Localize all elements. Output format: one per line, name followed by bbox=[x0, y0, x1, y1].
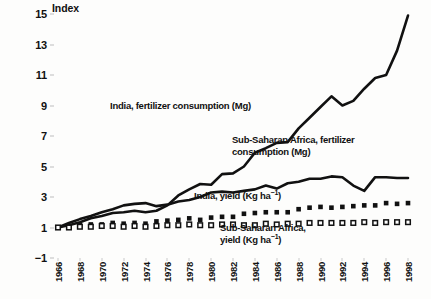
annotation-india-yield: India, yield (Kg ha−1) bbox=[194, 190, 281, 202]
series-marker bbox=[187, 222, 192, 227]
x-tick-label: 1978 bbox=[184, 262, 195, 282]
series-marker bbox=[362, 220, 367, 225]
annotation-ssa-yield: Sub-Saharan Africa, yield (Kg ha−1) bbox=[220, 222, 306, 245]
series-marker bbox=[67, 225, 72, 230]
x-tick-label: 1970 bbox=[96, 262, 107, 282]
series-marker bbox=[329, 205, 334, 210]
y-tick-label: −1 bbox=[35, 252, 47, 264]
x-tick-mark bbox=[123, 258, 124, 261]
series-marker bbox=[110, 224, 115, 229]
annotation-ssa-fertilizer: Sub-Saharan Africa, fertilizer consumpti… bbox=[232, 134, 355, 157]
series-marker bbox=[176, 218, 181, 223]
series-marker bbox=[395, 202, 400, 207]
x-tick-mark bbox=[364, 258, 365, 261]
series-marker bbox=[99, 224, 104, 229]
x-tick-label: 1966 bbox=[53, 262, 64, 282]
annotation-india-yield-text: India, yield (Kg ha bbox=[194, 190, 271, 201]
x-tick-label: 1996 bbox=[381, 262, 392, 282]
x-tick-label: 1980 bbox=[206, 262, 217, 282]
x-tick-label: 1992 bbox=[337, 262, 348, 282]
y-tick-label: 7 bbox=[41, 130, 47, 142]
series-marker bbox=[198, 223, 203, 228]
series-marker bbox=[143, 224, 148, 229]
series-marker bbox=[89, 224, 94, 229]
x-tick-label: 1974 bbox=[140, 262, 151, 282]
y-tick-label: 1 bbox=[41, 222, 47, 234]
x-tick-label: 1982 bbox=[228, 262, 239, 282]
x-tick-label: 1988 bbox=[293, 262, 304, 282]
series-marker bbox=[56, 225, 61, 230]
x-tick-mark bbox=[79, 258, 80, 261]
y-axis-title: Index bbox=[52, 2, 79, 14]
series-marker bbox=[285, 210, 290, 215]
series-marker bbox=[329, 221, 334, 226]
series-marker bbox=[340, 221, 345, 226]
series-marker bbox=[384, 220, 389, 225]
series-marker bbox=[373, 203, 378, 208]
annotation-ssa-yield-line1: Sub-Saharan Africa, bbox=[220, 222, 306, 234]
annotation-ssa-yield-tail: ) bbox=[278, 234, 281, 245]
series-marker bbox=[406, 201, 411, 206]
series-marker bbox=[373, 221, 378, 226]
x-tick-mark bbox=[211, 258, 212, 261]
x-tick-label: 1972 bbox=[118, 262, 129, 282]
series-marker bbox=[264, 210, 269, 215]
series-marker bbox=[340, 205, 345, 210]
series-marker bbox=[384, 201, 389, 206]
x-tick-mark bbox=[58, 258, 59, 261]
y-tick-label: 3 bbox=[41, 191, 47, 203]
series-marker bbox=[121, 224, 126, 229]
series-marker bbox=[307, 221, 312, 226]
annotation-ssa-fertilizer-line1: Sub-Saharan Africa, fertilizer bbox=[232, 134, 355, 146]
x-tick-mark bbox=[386, 258, 387, 261]
x-tick-label: 1968 bbox=[74, 262, 85, 282]
x-tick-label: 1990 bbox=[315, 262, 326, 282]
annotation-india-yield-tail: ) bbox=[278, 190, 281, 201]
x-tick-mark bbox=[167, 258, 168, 261]
series-marker bbox=[318, 205, 323, 210]
series-marker bbox=[198, 218, 203, 223]
x-tick-label: 1976 bbox=[162, 262, 173, 282]
x-tick-label: 1994 bbox=[359, 262, 370, 282]
annotation-india-fertilizer: India, fertilizer consumption (Mg) bbox=[110, 100, 251, 112]
x-tick-mark bbox=[408, 258, 409, 261]
series-marker bbox=[132, 224, 137, 229]
series-marker bbox=[187, 216, 192, 221]
x-tick-mark bbox=[298, 258, 299, 261]
y-tick-label: 5 bbox=[41, 161, 47, 173]
x-tick-mark bbox=[101, 258, 102, 261]
series-marker bbox=[209, 223, 214, 228]
series-marker bbox=[176, 223, 181, 228]
series-marker bbox=[351, 204, 356, 209]
x-tick-label: 1984 bbox=[249, 262, 260, 282]
series-marker bbox=[220, 215, 225, 220]
y-tick-label: 13 bbox=[35, 39, 47, 51]
series-marker bbox=[242, 211, 247, 216]
series-marker bbox=[253, 211, 258, 216]
x-tick-mark bbox=[145, 258, 146, 261]
series-marker bbox=[154, 224, 159, 229]
series-marker bbox=[296, 207, 301, 212]
series-marker bbox=[362, 203, 367, 208]
y-tick-label: 15 bbox=[35, 8, 47, 20]
annotation-india-fertilizer-text: India, fertilizer consumption (Mg) bbox=[110, 100, 251, 111]
series-marker bbox=[406, 220, 411, 225]
series-marker bbox=[209, 215, 214, 220]
x-tick-mark bbox=[254, 258, 255, 261]
series-marker bbox=[351, 221, 356, 226]
annotation-ssa-yield-line2: yield (Kg ha−1) bbox=[220, 234, 306, 246]
y-tick-label: 11 bbox=[36, 69, 47, 81]
series-marker bbox=[318, 221, 323, 226]
chart-figure: Index 15131197531−1 19661968197019721974… bbox=[0, 0, 431, 299]
x-tick-mark bbox=[320, 258, 321, 261]
series-none bbox=[58, 176, 408, 227]
x-tick-mark bbox=[233, 258, 234, 261]
annotation-ssa-yield-text: yield (Kg ha bbox=[220, 234, 271, 245]
y-tick-label: 9 bbox=[41, 100, 47, 112]
annotation-ssa-fertilizer-line2: consumption (Mg) bbox=[232, 146, 355, 158]
x-tick-label: 1986 bbox=[271, 262, 282, 282]
annotation-india-yield-exponent: −1 bbox=[271, 189, 278, 196]
series-marker bbox=[165, 223, 170, 228]
x-tick-mark bbox=[342, 258, 343, 261]
series-marker bbox=[231, 215, 236, 220]
